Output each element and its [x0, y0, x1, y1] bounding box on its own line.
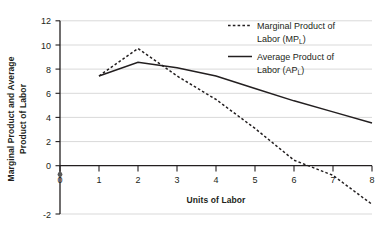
legend-mp-text: Labor (MP: [257, 34, 299, 44]
x-tick-label-1: 1: [96, 175, 101, 185]
chart-figure: 12 10 8 6 4 2 0 -2 0 1 2 3 4 5 6 7 8 Mar…: [0, 0, 385, 247]
y-tick-label-12: 12: [41, 16, 51, 26]
legend-ap-text: Labor (AP: [257, 65, 298, 75]
x-tick-label-5: 5: [252, 175, 257, 185]
y-axis-title-line2: Product of Labor: [18, 83, 28, 154]
x-tick-label-8: 8: [369, 175, 374, 185]
line-chart-svg: 12 10 8 6 4 2 0 -2 0 1 2 3 4 5 6 7 8 Mar…: [0, 0, 385, 247]
y-tick-label-8: 8: [46, 65, 51, 75]
legend-label-marginal-product-line2: Labor (MPL): [257, 34, 306, 45]
y-tick-label-0: 0: [46, 161, 51, 171]
legend-mp-paren: ): [303, 34, 306, 44]
legend-label-average-product-line2: Labor (APL): [257, 65, 304, 76]
x-tick-label-4: 4: [213, 175, 218, 185]
origin-marker-dot: [58, 172, 63, 177]
y-tick-label-minus2: -2: [43, 210, 51, 220]
y-tick-label-2: 2: [46, 137, 51, 147]
y-tick-label-10: 10: [41, 41, 51, 51]
x-tick-label-6: 6: [291, 175, 296, 185]
chart-background: [0, 0, 385, 247]
legend-label-average-product-line1: Average Product of: [257, 52, 334, 62]
y-axis-title-line1: Marginal Product and Average: [6, 56, 16, 181]
x-tick-label-3: 3: [174, 175, 179, 185]
y-tick-label-6: 6: [46, 89, 51, 99]
x-axis-title: Units of Labor: [186, 195, 246, 205]
x-tick-label-2: 2: [135, 175, 140, 185]
legend-ap-paren: ): [301, 65, 304, 75]
y-tick-label-4: 4: [46, 113, 51, 123]
legend-label-marginal-product-line1: Marginal Product of: [257, 21, 336, 31]
